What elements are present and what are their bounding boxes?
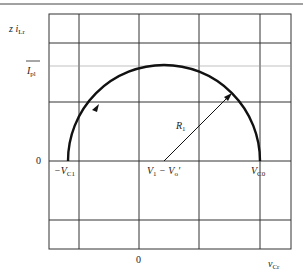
- radius-label: R1: [176, 121, 186, 133]
- y-tick-zero: 0: [36, 156, 41, 166]
- point-vc0: VC0: [251, 166, 265, 178]
- x-tick-zero: 0: [136, 255, 141, 265]
- direction-arrow-icon: [92, 104, 99, 112]
- point-center: V1 − Vo′: [147, 166, 180, 178]
- y-tick-ipl: Ipl: [27, 66, 36, 78]
- state-plane-diagram: [0, 0, 303, 277]
- radius-line: [164, 96, 229, 161]
- trajectory-arc: [68, 65, 260, 161]
- x-axis-label: vCr: [268, 259, 279, 271]
- y-axis-label: z iLr: [9, 24, 25, 36]
- point-neg-vc1: −VC1: [54, 166, 75, 178]
